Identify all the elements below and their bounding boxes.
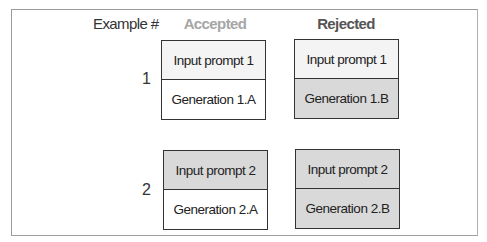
- example-number-header: Example #: [93, 15, 158, 32]
- generation-cell: Generation 1.B: [295, 79, 398, 118]
- accepted-pair-1: Input prompt 1 Generation 1.A: [161, 40, 266, 120]
- rejected-header: Rejected: [306, 15, 386, 32]
- example-number-1: 1: [131, 70, 151, 88]
- prompt-cell: Input prompt 1: [162, 41, 265, 80]
- accepted-pair-2: Input prompt 2 Generation 2.A: [163, 150, 268, 230]
- generation-cell: Generation 2.B: [296, 189, 399, 228]
- prompt-cell: Input prompt 1: [295, 40, 398, 79]
- rejected-pair-2: Input prompt 2 Generation 2.B: [295, 149, 400, 229]
- generation-cell: Generation 1.A: [162, 80, 265, 119]
- prompt-cell: Input prompt 2: [296, 150, 399, 189]
- example-number-2: 2: [131, 181, 151, 199]
- generation-cell: Generation 2.A: [164, 190, 267, 229]
- prompt-cell: Input prompt 2: [164, 151, 267, 190]
- rejected-pair-1: Input prompt 1 Generation 1.B: [294, 39, 399, 119]
- accepted-header: Accepted: [175, 15, 255, 32]
